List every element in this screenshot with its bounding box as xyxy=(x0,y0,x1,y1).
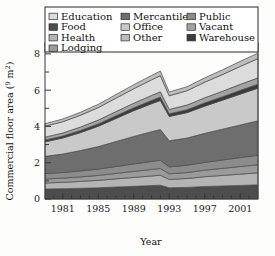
legend-swatch-warehouse xyxy=(187,34,196,41)
legend-swatch-health xyxy=(49,34,58,41)
legend-swatch-vacant xyxy=(187,24,196,31)
legend-label-education: Education xyxy=(61,11,113,22)
chart-legend: EducationFoodHealthLodgingMercantileOffi… xyxy=(45,7,258,53)
y-tick-label: 8 xyxy=(34,48,40,59)
x-axis-title: Year xyxy=(139,236,162,247)
legend-label-public: Public xyxy=(199,11,231,22)
legend-label-warehouse: Warehouse xyxy=(199,32,255,43)
x-tick-label: 1985 xyxy=(86,203,110,214)
y-tick-label: 0 xyxy=(34,193,40,204)
x-tick-label: 1981 xyxy=(51,203,75,214)
legend-swatch-food xyxy=(49,24,58,31)
legend-label-other: Other xyxy=(133,32,163,43)
y-tick-label: 2 xyxy=(34,157,40,168)
legend-swatch-education xyxy=(49,13,58,20)
x-tick-label: 2001 xyxy=(228,203,252,214)
legend-label-health: Health xyxy=(61,32,96,43)
legend-label-lodging: Lodging xyxy=(61,42,103,53)
legend-label-office: Office xyxy=(133,21,163,32)
legend-swatch-other xyxy=(121,34,130,41)
legend-swatch-lodging xyxy=(49,45,58,52)
y-axis-ticks: 02468 xyxy=(34,48,51,204)
legend-swatch-office xyxy=(121,24,130,31)
plot-area xyxy=(45,53,258,199)
legend-swatch-mercantile xyxy=(121,13,130,20)
y-tick-label: 6 xyxy=(34,85,40,96)
chart-figure: 198119851989199319972001 02468 Year Comm… xyxy=(0,0,275,256)
y-tick-label: 4 xyxy=(34,121,40,132)
x-axis-ticks: 198119851989199319972001 xyxy=(51,193,253,214)
legend-label-food: Food xyxy=(61,21,86,32)
x-tick-label: 1989 xyxy=(122,203,146,214)
x-tick-label: 1993 xyxy=(157,203,181,214)
y-axis-title: Commercial floor area (9 m2) xyxy=(4,62,15,201)
x-tick-label: 1997 xyxy=(193,203,217,214)
legend-label-mercantile: Mercantile xyxy=(133,11,188,22)
stacked-area-chart: 198119851989199319972001 02468 Year Comm… xyxy=(0,0,275,256)
legend-swatch-public xyxy=(187,13,196,20)
legend-label-vacant: Vacant xyxy=(198,21,233,32)
